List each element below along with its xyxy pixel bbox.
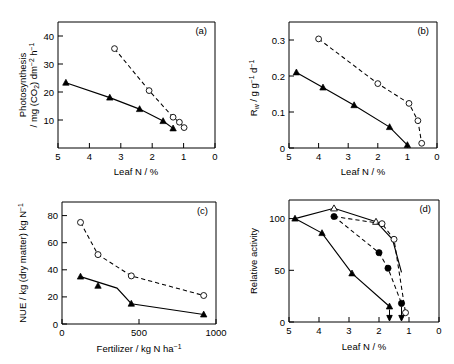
panel-d-ytick-0: 0 [280, 317, 285, 328]
panel-c: 80 60 40 20 0 0 500 1000 Fertilizer / kg… [0, 182, 227, 364]
panel-a-ytick-10: 10 [43, 115, 54, 126]
panel-b: 0.3 0.2 0.1 0 5 4 3 2 1 0 Leaf N / % [227, 0, 454, 182]
panel-c-xlabel: Fertilizer / kg N ha−1 [97, 343, 182, 354]
panel-a-xtick-2: 2 [150, 151, 155, 162]
panel-d-xlabel: Leaf N / % [342, 341, 387, 352]
panel-a-xtick-1: 1 [181, 151, 186, 162]
panel-a: 40 30 20 10 5 4 3 2 1 0 Leaf N / % [0, 0, 227, 182]
panel-d-series-open-circle [334, 217, 409, 316]
panel-d-xtick-1: 1 [406, 325, 411, 336]
panel-b-label: (b) [417, 25, 429, 36]
panel-b-x-axis: 5 4 3 2 1 0 [286, 143, 439, 162]
panel-a-label: (a) [195, 25, 207, 36]
panel-d-y-axis: 100 50 0 [269, 213, 294, 327]
panel-b-xlabel: Leaf N / % [341, 166, 386, 177]
panel-a-xtick-4: 4 [87, 151, 92, 162]
panel-a-ylabel-line2: / mg (CO2) dm−2 h−1 [28, 42, 40, 127]
panel-c-xtick-1000: 1000 [205, 327, 226, 338]
panel-b-frame [289, 22, 437, 148]
panel-b-series-closed-triangle [293, 69, 410, 148]
panel-c-xtick-500: 500 [131, 327, 147, 338]
panel-a-series-open-circle [112, 46, 187, 131]
panel-b-xtick-0: 0 [434, 151, 439, 162]
panel-a-ytick-40: 40 [43, 31, 54, 42]
panel-d-xtick-3: 3 [346, 325, 351, 336]
panel-c-ytick-20: 20 [47, 291, 58, 302]
panel-d-xtick-2: 2 [376, 325, 381, 336]
panel-d-x-axis: 5 4 3 2 1 0 [286, 317, 441, 336]
panel-a-xtick-5: 5 [55, 151, 60, 162]
panel-d-ytick-50: 50 [274, 265, 285, 276]
figure-root: 40 30 20 10 5 4 3 2 1 0 Leaf N / % [0, 0, 454, 364]
panel-b-ytick-0: 0 [280, 143, 285, 154]
panel-d-xtick-5: 5 [286, 325, 291, 336]
panel-a-xtick-0: 0 [212, 151, 217, 162]
panel-d-series-open-triangle [295, 205, 402, 273]
panel-c-ytick-80: 80 [47, 210, 58, 221]
panel-c-xtick-0: 0 [59, 327, 64, 338]
panel-c-x-axis: 0 500 1000 [59, 319, 226, 338]
panel-d-series-closed-triangle [292, 215, 393, 321]
panel-c-series-closed-triangle [77, 273, 207, 317]
panel-b-ytick-02: 0.2 [272, 71, 285, 82]
panel-c-label: (c) [197, 205, 208, 216]
panel-c-ytick-60: 60 [47, 237, 58, 248]
panel-b-ytick-01: 0.1 [272, 107, 285, 118]
panel-c-ytick-40: 40 [47, 264, 58, 275]
panel-d-label: (d) [419, 203, 431, 214]
panel-a-ytick-30: 30 [43, 59, 54, 70]
panel-b-xtick-5: 5 [286, 151, 291, 162]
panel-b-ytick-03: 0.3 [272, 35, 285, 46]
panel-a-frame [58, 22, 215, 148]
panel-a-xlabel: Leaf N / % [114, 166, 159, 177]
panel-b-series-open-circle [316, 36, 425, 146]
panel-d-xtick-0: 0 [436, 325, 441, 336]
panel-b-xtick-4: 4 [316, 151, 321, 162]
panel-a-series-closed-triangle [63, 79, 177, 131]
panel-d-xtick-4: 4 [316, 325, 321, 336]
panel-c-frame [62, 202, 216, 324]
panel-d-series-closed-circle [331, 213, 405, 321]
panel-b-xtick-1: 1 [405, 151, 410, 162]
panel-c-ylabel: NUE / kg (dry matter) kg N−1 [17, 203, 28, 323]
panel-b-xtick-3: 3 [346, 151, 351, 162]
panel-b-ylabel: Rw / g g−1 d−1 [248, 60, 260, 117]
panel-b-y-axis: 0.3 0.2 0.1 0 [272, 35, 294, 154]
panel-c-ytick-0: 0 [53, 319, 58, 330]
panel-d: 100 50 0 5 4 3 2 1 0 Leaf N / % Relativ [227, 182, 454, 364]
panel-d-ylabel: Relative activity [248, 228, 259, 294]
panel-a-y-axis: 40 30 20 10 [43, 31, 63, 126]
panel-a-x-axis: 5 4 3 2 1 0 [55, 143, 217, 162]
panel-b-xtick-2: 2 [375, 151, 380, 162]
panel-a-xtick-3: 3 [118, 151, 123, 162]
panel-c-y-axis: 80 60 40 20 0 [47, 210, 67, 329]
panel-d-ytick-100: 100 [269, 213, 285, 224]
panel-a-ylabel-line1: Photosynthesis [17, 53, 28, 118]
panel-a-ytick-20: 20 [43, 87, 54, 98]
